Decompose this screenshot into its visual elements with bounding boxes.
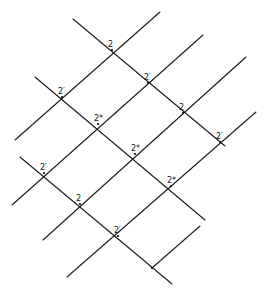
intersection-node [117,235,119,237]
node-label: 2* [167,176,176,185]
node-label: 2* [94,114,103,123]
ascending-line [43,57,246,240]
intersection-node [61,96,63,98]
intersection-node [147,82,149,84]
node-label: 2* [131,144,140,153]
intersection-node [43,172,45,174]
descending-lines [20,19,225,284]
node-label: 2′ [40,163,47,172]
lattice-diagram: 22′22′2′2*2*2*2′22′ [0,0,269,295]
descending-line [20,157,172,284]
intersection-node [111,49,113,51]
ascending-line [67,112,256,277]
node-label: 2 [76,194,81,203]
node-label: 2 [179,103,184,112]
intersection-node [134,153,136,155]
intersection-node [219,141,221,143]
intersection-node [170,185,172,187]
intersection-node [151,267,153,269]
node-label: 2′ [58,87,65,96]
intersection-node [97,123,99,125]
descending-line [35,77,205,220]
node-label: 2 [108,40,113,49]
ascending-line [152,226,200,268]
node-labels: 22′22′2′2*2*2*2′22′ [40,40,223,269]
node-label: 2′ [114,226,121,235]
node-label: 2′ [144,73,151,82]
node-label: 2′ [216,132,223,141]
intersection-node [79,203,81,205]
intersection-node [182,112,184,114]
